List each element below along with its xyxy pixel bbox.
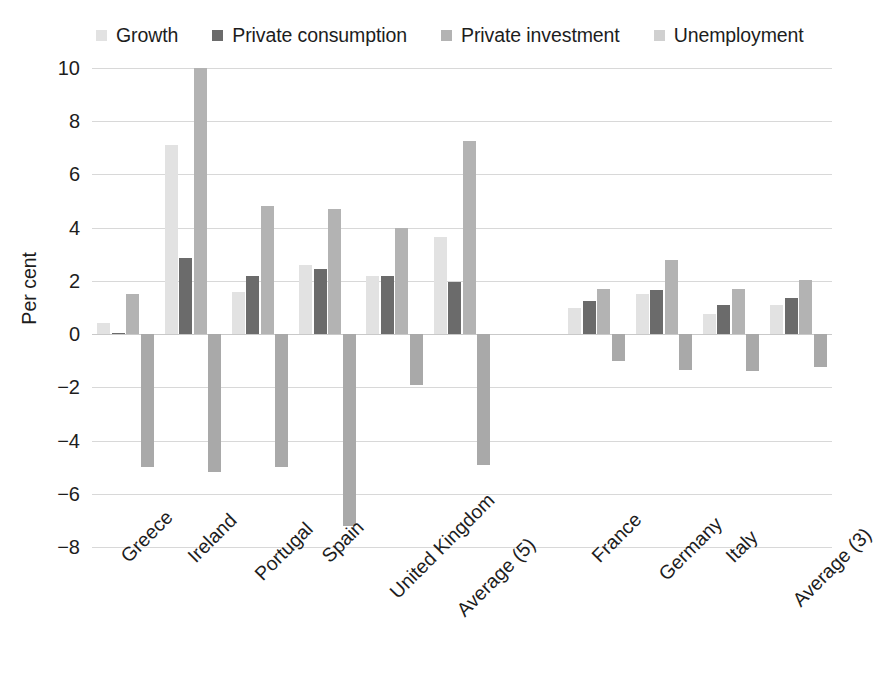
chart-legend: GrowthPrivate consumptionPrivate investm… [96,22,816,48]
bar [477,334,490,464]
bar [814,334,827,367]
legend-label: Private investment [461,24,620,47]
bar [314,269,327,334]
bar [650,290,663,334]
legend-swatch-icon [441,30,452,41]
bar [799,280,812,335]
bar [141,334,154,467]
legend-item-unemployment[interactable]: Unemployment [654,24,804,47]
bar [597,289,610,334]
y-tick-label: 8 [69,110,80,133]
bar [679,334,692,370]
bar [612,334,625,361]
y-tick-label: 10 [58,57,80,80]
bar [463,141,476,334]
bar [112,333,125,334]
bar [97,323,110,334]
bar [583,301,596,334]
y-tick-label: 4 [69,216,80,239]
legend-item-private-investment[interactable]: Private investment [441,24,620,47]
bar [665,260,678,335]
legend-swatch-icon [212,30,223,41]
bar [381,276,394,335]
legend-label: Private consumption [232,24,407,47]
y-tick-label: −6 [57,482,80,505]
x-axis-labels: GreeceIrelandPortugalSpainUnited Kingdom… [92,547,832,699]
bar [232,292,245,335]
bar [732,289,745,334]
y-axis-title: Per cent [18,252,41,325]
bar [343,334,356,526]
plot-area: 1086420−2−4−6−8 [92,68,832,547]
bar [246,276,259,335]
bar [366,276,379,335]
bar [410,334,423,385]
legend-item-growth[interactable]: Growth [96,24,178,47]
bar [194,68,207,334]
bar [328,209,341,334]
bar [448,282,461,334]
bar [275,334,288,467]
x-tick-label: Average (5) [452,533,540,621]
legend-swatch-icon [96,30,107,41]
bar [261,206,274,334]
legend-item-private-consumption[interactable]: Private consumption [212,24,407,47]
y-tick-label: −4 [57,429,80,452]
legend-label: Unemployment [674,24,804,47]
y-tick-label: 2 [69,269,80,292]
bar [636,294,649,334]
y-tick-label: −8 [57,536,80,559]
legend-label: Growth [116,24,178,47]
bar [703,314,716,334]
bar [717,305,730,334]
bars-layer [92,68,832,547]
y-tick-label: −2 [57,376,80,399]
bar [165,145,178,334]
y-tick-label: 0 [69,323,80,346]
legend-swatch-icon [654,30,665,41]
bar [770,305,783,334]
bar [126,294,139,334]
y-tick-label: 6 [69,163,80,186]
bar [746,334,759,371]
bar [179,258,192,334]
bar [299,265,312,334]
bar [568,308,581,335]
bar [395,228,408,334]
bar [434,237,447,334]
bar [208,334,221,472]
bar [785,298,798,334]
